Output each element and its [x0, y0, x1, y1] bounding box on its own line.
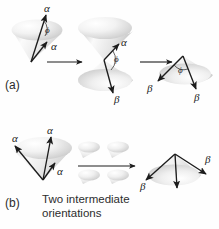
- label-phi-a1: ϕ: [45, 25, 50, 35]
- label-alpha-a2: α: [121, 36, 127, 48]
- panel-label-b: (b): [5, 196, 20, 210]
- label-alpha-b1-left: α: [12, 132, 18, 144]
- mini-cone-4: [107, 170, 129, 181]
- label-beta-b3-left: β: [139, 180, 146, 192]
- cone-mouth-ellipse: [16, 137, 72, 159]
- label-phi-a3: ϕ: [178, 65, 183, 75]
- intermediate-orientations-caption: Two intermediate orientations: [42, 193, 172, 220]
- label-alpha-a1-top: α: [44, 2, 50, 14]
- mini-cone-1: [78, 142, 100, 153]
- panel-label-a: (a): [5, 78, 20, 92]
- label-beta-a3-left: β: [146, 82, 153, 94]
- cone-mouth-ellipse: [159, 64, 211, 85]
- mini-cone-3: [78, 170, 100, 181]
- row-b-stage3-cone: [147, 154, 201, 186]
- cone-orientation-figure: α α ϕ α β ϕ β β ϕ α α α β β (a) (b) Two …: [0, 0, 219, 229]
- lower-cone-mouth: [78, 69, 132, 91]
- label-alpha-b1-top: α: [47, 124, 53, 136]
- cone-mouth-ellipse: [12, 20, 63, 41]
- label-beta-a3-right: β: [193, 91, 200, 103]
- label-alpha-a1-bottom: α: [51, 40, 57, 52]
- mini-cone-2: [107, 142, 129, 153]
- row-b-stage1-cone: [11, 137, 72, 180]
- label-alpha-b1-right: α: [57, 165, 63, 177]
- row-a-stage3-cone: [158, 56, 213, 85]
- row-b-intermediate-cones: [78, 142, 129, 185]
- label-phi-a2: ϕ: [114, 54, 119, 64]
- cone-mouth-ellipse: [148, 165, 200, 186]
- label-beta-b3-right: β: [204, 153, 211, 165]
- row-a-stage2-double-cone: [78, 17, 133, 91]
- label-beta-a2: β: [113, 93, 120, 105]
